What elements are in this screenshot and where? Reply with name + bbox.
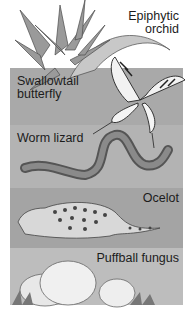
label-worm-lizard: Worm lizard [17,132,83,145]
ocelot-illustration [18,202,160,238]
label-puffball-fungus: Puffball fungus [97,252,179,265]
label-line: Ocelot [143,192,179,205]
label-swallowtail-butterfly: Swallowtail butterfly [17,75,79,101]
label-line: Puffball fungus [97,252,179,265]
label-line: Worm lizard [17,132,83,145]
puffball-illustration [12,261,155,307]
label-epiphytic-orchid: Epiphytic orchid [128,10,179,36]
label-line: butterfly [17,88,79,101]
label-line: orchid [128,23,179,36]
label-ocelot: Ocelot [143,192,179,205]
